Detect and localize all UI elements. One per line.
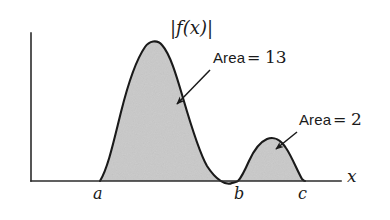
area-2-annotation: Area= 2 (299, 111, 362, 128)
area-13-annotation: Area= 13 (213, 49, 287, 66)
area-13-word: Area (213, 49, 245, 66)
area-13-equals: = (245, 48, 261, 67)
area-13-value: 13 (265, 47, 287, 67)
x-axis-label: x (347, 168, 357, 185)
area-13-arrow (177, 70, 210, 104)
area-2-value: 2 (351, 109, 362, 129)
area-2-word: Area (299, 111, 331, 128)
x-tick-label-b: b (234, 186, 244, 202)
area-2-equals: = (331, 110, 347, 129)
x-tick-label-c: c (298, 186, 307, 202)
curve-label-abs-f-of-x: |f(x)| (170, 19, 213, 37)
absolute-value-area-figure: |f(x)| Area= 13 Area= 2 a b c x (0, 0, 390, 220)
x-tick-label-a: a (93, 186, 103, 202)
